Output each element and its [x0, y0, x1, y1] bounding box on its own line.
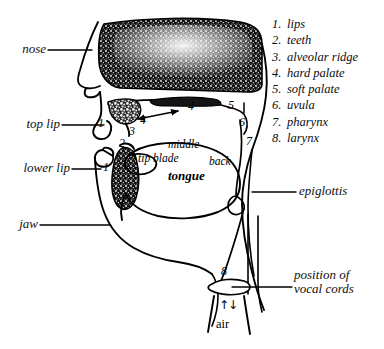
legend-number-2: 2. — [272, 32, 287, 48]
legend-item-7: 7.pharynx — [272, 114, 384, 130]
legend-number-6: 6. — [272, 97, 287, 113]
callout-air: air — [216, 317, 229, 332]
legend-label-7: pharynx — [287, 115, 328, 129]
marker-uvula-6: 6 — [239, 115, 245, 130]
legend-label-6: uvula — [287, 98, 315, 112]
legend-number-1: 1. — [272, 16, 287, 32]
tongue-region-back: back — [209, 155, 231, 167]
legend-item-6: 6.uvula — [272, 97, 384, 113]
vocal-tract-diagram: 1.lips 2.teeth 3.alveolar ridge 4.hard p… — [0, 0, 384, 349]
legend-label-3: alveolar ridge — [287, 50, 358, 64]
legend-item-5: 5.soft palate — [272, 81, 384, 97]
marker-larynx-8: 8 — [221, 264, 227, 279]
legend-item-2: 2.teeth — [272, 32, 384, 48]
callout-epiglottis: epiglottis — [299, 184, 347, 199]
marker-top-lip-1: 1 — [98, 116, 104, 131]
callout-nose: nose — [0, 42, 46, 57]
legend-label-8: larynx — [287, 131, 319, 145]
legend-number-8: 8. — [272, 130, 287, 146]
callout-jaw: jaw — [0, 217, 38, 232]
marker-soft-palate-5: 5 — [228, 98, 234, 113]
tongue-region-middle: middle — [168, 138, 199, 150]
legend-number-3: 3. — [272, 49, 287, 65]
marker-hard-palate-4-right: 4 — [188, 99, 194, 114]
legend-item-3: 3.alveolar ridge — [272, 49, 384, 65]
marker-pharynx-7: 7 — [246, 134, 252, 149]
legend-label-4: hard palate — [287, 66, 345, 80]
tongue-label: tongue — [168, 168, 205, 184]
legend-number-5: 5. — [272, 81, 287, 97]
legend-number-4: 4. — [272, 65, 287, 81]
legend-label-2: teeth — [287, 33, 311, 47]
marker-lower-lip-1: 1 — [103, 160, 109, 175]
callout-top-lip: top lip — [0, 117, 60, 132]
callout-vocal-cords-line2: vocal cords — [294, 282, 354, 297]
marker-teeth-2: 2 — [119, 136, 125, 151]
legend-label-1: lips — [287, 17, 305, 31]
legend-list: 1.lips 2.teeth 3.alveolar ridge 4.hard p… — [272, 16, 384, 146]
legend-number-7: 7. — [272, 114, 287, 130]
legend-item-1: 1.lips — [272, 16, 384, 32]
legend-item-8: 8.larynx — [272, 130, 384, 146]
legend-label-5: soft palate — [287, 82, 339, 96]
airflow-arrows-icon: ↑↓ — [219, 298, 237, 312]
marker-alveolar-ridge-3: 3 — [129, 124, 135, 139]
tongue-region-tip-blade: tip blade — [138, 152, 179, 164]
callout-lower-lip: lower lip — [0, 161, 70, 176]
marker-hard-palate-4-left: 4 — [140, 113, 146, 128]
legend-item-4: 4.hard palate — [272, 65, 384, 81]
